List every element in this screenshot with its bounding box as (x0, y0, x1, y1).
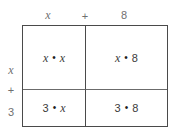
column-header-plus-operator: + (72, 10, 98, 22)
factor-right: 8 (132, 52, 138, 64)
row-header-plus-operator: + (3, 84, 19, 96)
column-header-8: 8 (110, 9, 138, 21)
factor-left: x (43, 52, 48, 64)
multiply-dot-icon: • (52, 52, 56, 64)
product-term: 3 • x (43, 102, 66, 114)
product-term: x • x (43, 52, 65, 64)
row-header-x: x (3, 64, 19, 76)
factor-left: 3 (115, 102, 121, 114)
area-model-grid: x • x x • 8 3 • x 3 • 8 (22, 25, 168, 127)
multiply-dot-icon: • (125, 102, 129, 114)
factor-right: x (60, 102, 65, 114)
grid-cell-bottom-right: 3 • 8 (86, 90, 167, 126)
product-term: x • 8 (115, 52, 138, 64)
row-header-3: 3 (3, 106, 19, 118)
factor-right: x (60, 52, 65, 64)
product-term: 3 • 8 (115, 102, 139, 114)
factor-left: x (115, 52, 120, 64)
area-model-diagram: x + 8 x + 3 x • x x • 8 3 • x (0, 0, 175, 131)
multiply-dot-icon: • (53, 102, 57, 114)
factor-left: 3 (43, 102, 49, 114)
multiply-dot-icon: • (124, 52, 128, 64)
column-header-x: x (34, 9, 62, 21)
grid-cell-bottom-left: 3 • x (23, 90, 86, 126)
factor-right: 8 (132, 102, 138, 114)
grid-cell-top-right: x • 8 (86, 26, 167, 90)
grid-cell-top-left: x • x (23, 26, 86, 90)
